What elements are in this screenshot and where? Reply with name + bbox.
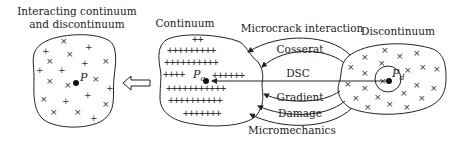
svg-text:×: × xyxy=(74,107,82,117)
svg-text:×: × xyxy=(413,48,421,58)
svg-text:+: + xyxy=(106,83,114,93)
plus-row: +++++++ xyxy=(183,108,222,119)
svg-text:×: × xyxy=(46,56,54,66)
svg-text:×: × xyxy=(102,56,110,66)
svg-text:×: × xyxy=(374,92,382,102)
plus-row: ++++++ xyxy=(212,70,245,81)
point-pc xyxy=(203,78,209,84)
svg-text:×: × xyxy=(430,83,438,93)
svg-text:+: + xyxy=(85,42,93,52)
discontinuum-panel: Discontinuum × × × × × × × × × × × × × ×… xyxy=(338,25,446,114)
plus-row: ++ xyxy=(192,34,203,45)
svg-text:×: × xyxy=(381,45,389,55)
label-microcrack-interaction: Microcrack interaction xyxy=(241,22,364,34)
hollow-left-arrow-icon xyxy=(123,76,150,90)
plus-row: ++++++++++ xyxy=(164,57,219,68)
svg-text:×: × xyxy=(361,83,369,93)
svg-text:×: × xyxy=(64,80,72,90)
svg-text:×: × xyxy=(364,102,372,112)
svg-text:×: × xyxy=(386,99,394,109)
svg-text:+: + xyxy=(58,65,66,75)
svg-text:+: + xyxy=(81,58,89,68)
svg-text:×: × xyxy=(404,65,412,75)
svg-text:×: × xyxy=(378,58,386,68)
point-pd-label: Pd xyxy=(391,67,405,82)
mixed-markers: × + + × × + × + + × × × + + × + × × × + xyxy=(36,36,114,123)
svg-text:+: + xyxy=(84,90,92,100)
svg-text:+: + xyxy=(62,96,70,106)
svg-text:×: × xyxy=(50,107,58,117)
label-dsc: DSC xyxy=(286,67,310,79)
svg-text:×: × xyxy=(66,49,74,59)
svg-text:×: × xyxy=(344,79,352,89)
label-micromechanics: Micromechanics xyxy=(248,124,336,136)
svg-text:+: + xyxy=(90,113,98,123)
interacting-title-line2: and discontinuum xyxy=(29,18,124,30)
svg-text:×: × xyxy=(396,51,404,61)
plus-row: ++++++++++ xyxy=(168,95,223,106)
svg-text:×: × xyxy=(40,94,48,104)
plus-row: ++++ xyxy=(163,69,185,80)
label-damage: Damage xyxy=(278,107,322,119)
svg-text:×: × xyxy=(352,93,360,103)
label-gradient: Gradient xyxy=(277,91,325,103)
svg-text:×: × xyxy=(102,99,110,109)
svg-text:×: × xyxy=(60,36,68,46)
svg-text:×: × xyxy=(419,62,427,72)
continuum-discontinuum-diagram: Interacting continuum and discontinuum ×… xyxy=(0,0,470,144)
point-p-label: P xyxy=(79,71,88,84)
svg-text:×: × xyxy=(361,52,369,62)
plus-row: +++++++++ xyxy=(167,45,216,56)
interacting-title-line1: Interacting continuum xyxy=(17,5,137,17)
svg-text:×: × xyxy=(403,102,411,112)
svg-text:+: + xyxy=(36,65,44,75)
svg-text:×: × xyxy=(92,74,100,84)
svg-text:×: × xyxy=(46,76,54,86)
svg-text:+: + xyxy=(42,46,50,56)
svg-text:×: × xyxy=(413,80,421,90)
label-cosserat: Cosserat xyxy=(277,43,325,55)
svg-text:×: × xyxy=(361,68,369,78)
svg-text:×: × xyxy=(400,88,408,98)
svg-text:×: × xyxy=(433,64,441,74)
interacting-panel: Interacting continuum and discontinuum ×… xyxy=(17,5,137,127)
continuum-title: Continuum xyxy=(156,17,215,29)
svg-text:×: × xyxy=(418,93,426,103)
point-p xyxy=(73,80,79,86)
plus-row: +++++++++++ xyxy=(166,83,226,94)
svg-text:×: × xyxy=(347,62,355,72)
discontinuum-title: Discontinuum xyxy=(361,25,435,37)
svg-text:×: × xyxy=(379,76,387,86)
